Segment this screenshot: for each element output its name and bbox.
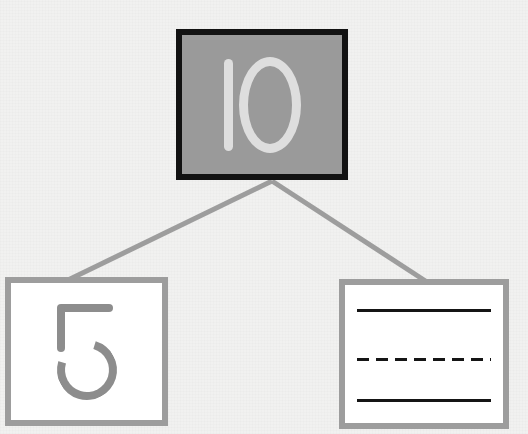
part-box-left[interactable]: 5 <box>5 277 168 426</box>
writing-lines-group <box>345 285 503 423</box>
writing-line-middle-dashed <box>357 358 491 361</box>
part-left-value: 5 <box>54 304 120 400</box>
connector-line-left <box>66 181 272 281</box>
whole-number-box[interactable]: 10 <box>176 29 348 180</box>
part-box-right-answer-area[interactable] <box>339 279 509 429</box>
writing-line-bottom <box>357 399 491 402</box>
digit-one-glyph <box>224 59 233 151</box>
connector-line-right <box>272 181 427 282</box>
number-bond-worksheet: 10 5 <box>0 0 528 434</box>
digit-five-glyph <box>54 304 120 400</box>
digit-five-flag <box>57 304 113 312</box>
writing-line-top <box>357 309 491 312</box>
whole-number-value: 10 <box>224 57 301 153</box>
digit-zero-glyph <box>239 57 301 153</box>
part-left-value-text: 5 <box>54 400 55 401</box>
